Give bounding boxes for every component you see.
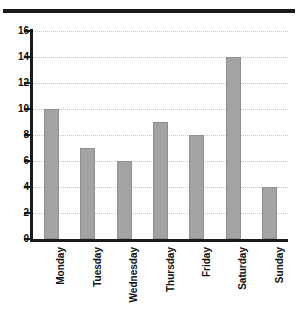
bar[interactable] [80, 148, 95, 239]
gridline [33, 109, 288, 110]
y-axis-tick-label: 12 [18, 78, 29, 88]
bar[interactable] [153, 122, 168, 239]
y-axis-tick-label: 14 [18, 52, 29, 62]
x-axis-category-label: Thursday [166, 247, 176, 307]
bar[interactable] [189, 135, 204, 239]
bar[interactable] [44, 109, 59, 239]
y-axis-tick-label: 10 [18, 104, 29, 114]
gridline [33, 57, 288, 58]
x-axis-category-label: Wednesday [129, 247, 139, 307]
x-axis-category-label: Sunday [275, 247, 285, 307]
y-axis-tick-label: 4 [23, 182, 29, 192]
x-axis-category-label: Friday [202, 247, 212, 307]
x-axis-line [30, 239, 288, 242]
bar[interactable] [117, 161, 132, 239]
y-axis-tick-label: 0 [23, 234, 29, 244]
x-axis-category-label: Saturday [238, 247, 248, 307]
y-axis-tick-label: 16 [18, 26, 29, 36]
y-axis-tick-label: 8 [23, 130, 29, 140]
gridline [33, 31, 288, 32]
bar[interactable] [226, 57, 241, 239]
x-axis-category-label: Tuesday [93, 247, 103, 307]
bar-chart: 0246810121416 MondayTuesdayWednesdayThur… [0, 0, 301, 312]
bar[interactable] [262, 187, 277, 239]
gridline [33, 83, 288, 84]
y-axis-line [30, 29, 33, 241]
y-axis-tick-label: 6 [23, 156, 29, 166]
x-axis-category-label: Monday [56, 247, 66, 307]
y-axis-tick-label: 2 [23, 208, 29, 218]
